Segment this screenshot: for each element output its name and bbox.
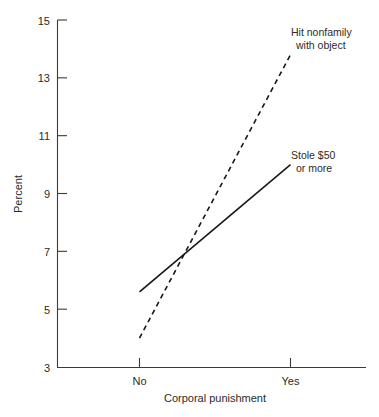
series-label-hit-nonfamily-line2: with object <box>295 39 346 51</box>
series-label-stole-50-line1: Stole $50 <box>291 149 336 161</box>
y-tick-label-11: 11 <box>39 130 50 142</box>
y-tick-label-13: 13 <box>38 72 50 84</box>
series-line-hit-nonfamily-with-object <box>140 55 291 338</box>
y-tick-label-5: 5 <box>44 304 50 316</box>
x-tick-label-yes: Yes <box>282 375 300 387</box>
series-line-stole-50-or-more <box>140 165 291 292</box>
series-label-hit-nonfamily-line1: Hit nonfamily <box>291 26 352 38</box>
y-tick-label-15: 15 <box>38 15 50 27</box>
line-chart: 15 13 11 9 7 5 3 No Yes Corporal punishm… <box>0 0 379 417</box>
series-label-stole-50-line2: or more <box>296 162 332 174</box>
y-tick-label-9: 9 <box>44 188 50 200</box>
x-tick-label-no: No <box>132 375 146 387</box>
chart-figure: 15 13 11 9 7 5 3 No Yes Corporal punishm… <box>0 0 379 417</box>
x-axis-title: Corporal punishment <box>164 392 266 404</box>
y-tick-label-7: 7 <box>44 246 50 258</box>
y-axis-title: Percent <box>12 175 24 213</box>
y-tick-label-3: 3 <box>44 362 50 374</box>
